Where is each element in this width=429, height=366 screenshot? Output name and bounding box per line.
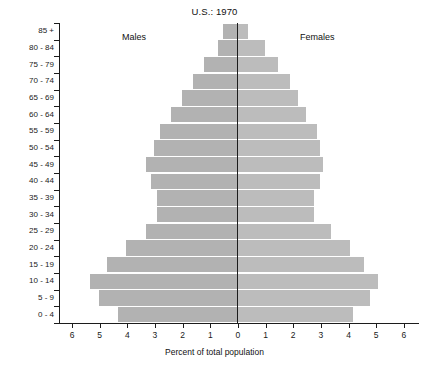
y-axis-tick: [54, 23, 59, 24]
x-axis-tick: [293, 323, 294, 328]
bar-female: [237, 174, 320, 189]
bar-male: [218, 40, 237, 55]
y-axis-label: 70 - 74: [0, 76, 54, 85]
x-axis-label: 4: [117, 330, 137, 340]
x-axis-tick: [72, 323, 73, 328]
y-axis-label: 0 - 4: [0, 310, 54, 319]
y-axis-tick: [54, 306, 59, 307]
bar-male: [90, 274, 237, 289]
x-axis-tick: [155, 323, 156, 328]
x-axis-tick: [127, 323, 128, 328]
chart-title: U.S.: 1970: [0, 6, 429, 17]
y-axis-tick: [54, 206, 59, 207]
bar-female: [237, 224, 331, 239]
bar-female: [237, 140, 320, 155]
x-axis-label: 1: [200, 330, 220, 340]
bar-male: [204, 57, 237, 72]
bar-male: [146, 157, 237, 172]
y-axis-label: 60 - 64: [0, 110, 54, 119]
y-axis-tick: [54, 123, 59, 124]
x-axis-tick: [349, 323, 350, 328]
x-axis-label: 5: [90, 330, 110, 340]
y-axis-label: 25 - 29: [0, 226, 54, 235]
y-axis-label: 75 - 79: [0, 60, 54, 69]
bar-female: [237, 257, 364, 272]
y-axis-tick: [54, 56, 59, 57]
bar-male: [118, 307, 237, 322]
y-axis-tick: [54, 240, 59, 241]
x-axis-tick: [321, 323, 322, 328]
x-axis-label: 6: [62, 330, 82, 340]
x-axis-line: [59, 323, 419, 324]
bar-male: [171, 107, 237, 122]
bar-male: [157, 207, 237, 222]
y-axis-label: 10 - 14: [0, 276, 54, 285]
y-axis-tick: [54, 256, 59, 257]
bar-female: [237, 107, 306, 122]
y-axis-line: [59, 23, 60, 323]
y-axis-label: 30 - 34: [0, 210, 54, 219]
y-axis-label: 15 - 19: [0, 260, 54, 269]
x-axis-label: 3: [145, 330, 165, 340]
bar-male: [99, 290, 237, 305]
y-axis-tick: [54, 323, 59, 324]
bar-male: [154, 140, 237, 155]
y-axis-label: 40 - 44: [0, 176, 54, 185]
bar-female: [237, 90, 298, 105]
y-axis-tick: [54, 156, 59, 157]
x-axis-label: 6: [394, 330, 414, 340]
y-axis-label: 5 - 9: [0, 293, 54, 302]
y-axis-tick: [54, 190, 59, 191]
bar-female: [237, 240, 350, 255]
center-axis-line: [237, 23, 238, 323]
x-axis-tick: [210, 323, 211, 328]
bar-female: [237, 157, 323, 172]
x-axis-tick: [100, 323, 101, 328]
plot-area: [72, 23, 404, 323]
bar-male: [151, 174, 237, 189]
y-axis-tick: [54, 73, 59, 74]
y-axis-label: 20 - 24: [0, 243, 54, 252]
y-axis-label: 65 - 69: [0, 93, 54, 102]
y-axis-tick: [54, 223, 59, 224]
y-axis-tick: [54, 90, 59, 91]
population-pyramid-chart: U.S.: 1970 Males Females Percent of tota…: [0, 0, 429, 366]
bar-female: [237, 207, 314, 222]
bar-male: [146, 224, 237, 239]
y-axis-label: 80 - 84: [0, 43, 54, 52]
x-axis-tick: [183, 323, 184, 328]
bar-male: [182, 90, 237, 105]
bar-female: [237, 57, 278, 72]
bar-female: [237, 24, 248, 39]
y-axis-tick: [54, 290, 59, 291]
y-axis-tick: [54, 140, 59, 141]
y-axis-tick: [54, 273, 59, 274]
x-axis-label: 5: [366, 330, 386, 340]
x-axis-title: Percent of total population: [0, 347, 429, 357]
x-axis-label: 0: [228, 330, 248, 340]
y-axis-label: 50 - 54: [0, 143, 54, 152]
x-axis-label: 4: [339, 330, 359, 340]
y-axis-label: 55 - 59: [0, 126, 54, 135]
bar-female: [237, 74, 290, 89]
bar-female: [237, 307, 353, 322]
bar-female: [237, 40, 265, 55]
x-axis-tick: [238, 323, 239, 328]
y-axis-tick: [54, 173, 59, 174]
x-axis-tick: [266, 323, 267, 328]
y-axis-label: 35 - 39: [0, 193, 54, 202]
y-axis-label: 85 +: [0, 26, 54, 35]
x-axis-label: 3: [311, 330, 331, 340]
x-axis-tick: [376, 323, 377, 328]
x-axis-label: 2: [283, 330, 303, 340]
y-axis-tick: [54, 106, 59, 107]
x-axis-label: 1: [256, 330, 276, 340]
bar-female: [237, 274, 378, 289]
bar-male: [107, 257, 237, 272]
bar-male: [126, 240, 237, 255]
bar-female: [237, 290, 370, 305]
bar-male: [157, 190, 237, 205]
x-axis-tick: [404, 323, 405, 328]
bar-male: [160, 124, 237, 139]
bar-male: [193, 74, 237, 89]
